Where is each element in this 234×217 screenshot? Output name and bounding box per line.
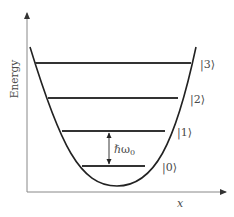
level-label-2: |2⟩ [190,93,205,107]
level-label-1: |1⟩ [177,126,192,140]
level-label-0: |0⟩ [162,161,177,175]
x-axis-label: x [177,197,184,210]
level-label-3: |3⟩ [200,58,215,72]
spacing-label: ℏω0 [114,143,135,157]
energy-level-diagram: ℏω0 |0⟩ |1⟩ |2⟩ |3⟩ Energy x [0,0,234,217]
y-axis-label: Energy [8,60,20,98]
